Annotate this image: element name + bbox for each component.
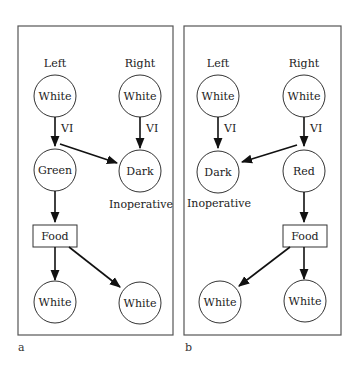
svg-text:White: White (288, 90, 321, 103)
node-bottom-left: White (199, 281, 241, 323)
svg-text:Food: Food (291, 230, 318, 243)
svg-text:White: White (202, 90, 235, 103)
svg-text:White: White (289, 295, 322, 308)
svg-text:White: White (39, 296, 72, 309)
edge-label-vi-right: VI (145, 122, 158, 135)
food-box: Food (33, 225, 77, 247)
svg-text:Green: Green (38, 164, 72, 177)
node-mid-right: Dark (119, 150, 161, 192)
node-bottom-right: White (284, 280, 326, 322)
node-top-right: White (119, 75, 161, 117)
svg-text:Food: Food (41, 230, 68, 243)
panel-b: Left Right White White VI VI Dark Red In… (184, 26, 341, 354)
node-bottom-right: White (119, 282, 161, 324)
panel-label-b: b (185, 341, 192, 354)
header-left: Left (44, 57, 67, 70)
header-right: Right (125, 57, 156, 70)
edge-label-vi-left: VI (60, 122, 73, 135)
panel-a: Left Right White White VI VI Green Dark … (18, 26, 173, 354)
edge-food-bottom-right (69, 247, 120, 287)
node-mid-left: Green (34, 149, 76, 191)
svg-text:Red: Red (293, 165, 315, 178)
node-mid-left: Dark (197, 151, 239, 193)
svg-text:White: White (124, 90, 157, 103)
node-top-left: White (34, 75, 76, 117)
node-top-right: White (283, 75, 325, 117)
svg-text:Dark: Dark (204, 166, 232, 179)
node-mid-right: Red (283, 150, 325, 192)
panel-label-a: a (18, 341, 25, 354)
node-bottom-left: White (34, 281, 76, 323)
header-right: Right (289, 57, 320, 70)
svg-text:Dark: Dark (126, 165, 154, 178)
node-top-left: White (197, 75, 239, 117)
diagram: Left Right White White VI VI Green Dark … (0, 0, 361, 371)
edge-label-vi-left: VI (223, 122, 236, 135)
edge-label-vi-right: VI (309, 122, 322, 135)
svg-text:White: White (204, 296, 237, 309)
header-left: Left (207, 57, 230, 70)
edge-food-bottom-left (239, 247, 290, 286)
food-box: Food (283, 225, 327, 247)
inoperative-label: Inoperative (109, 198, 173, 211)
svg-text:White: White (124, 297, 157, 310)
inoperative-label: Inoperative (187, 197, 251, 210)
svg-text:White: White (39, 90, 72, 103)
